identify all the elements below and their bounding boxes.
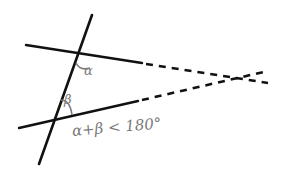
upper-line-dashed <box>146 64 268 83</box>
lower-line-dashed <box>142 71 268 100</box>
diagram-canvas <box>0 0 285 180</box>
upper-line-solid <box>26 45 142 63</box>
beta-label: β <box>64 93 72 106</box>
transversal-line <box>39 15 92 164</box>
alpha-label: α <box>84 64 93 77</box>
